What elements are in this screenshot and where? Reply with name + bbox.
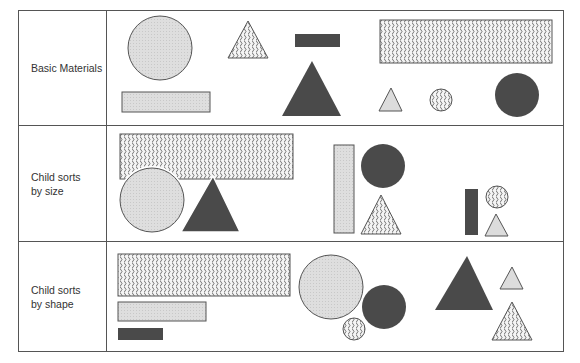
wavy-circle-small — [430, 89, 452, 111]
wavy-triangle-medium — [492, 302, 532, 340]
shapes-canvas — [0, 0, 580, 363]
dark-triangle-large — [282, 61, 341, 116]
sort-by-shape-shapes — [118, 254, 532, 340]
light-circle-large — [299, 255, 363, 319]
light-rectangle-long — [118, 302, 206, 321]
light-triangle-small — [500, 267, 523, 289]
dark-bar-small — [118, 328, 163, 340]
wavy-triangle-medium — [361, 195, 401, 234]
dark-triangle-large — [181, 176, 240, 232]
light-rectangle-long — [334, 145, 354, 233]
light-circle-large — [128, 16, 192, 80]
light-triangle-small — [379, 88, 402, 111]
wavy-circle-small — [343, 318, 365, 340]
dark-bar-small — [295, 34, 340, 47]
light-circle-large — [119, 167, 185, 233]
sort-by-size-shapes — [119, 134, 508, 236]
dark-triangle-large — [435, 256, 493, 310]
light-rectangle-long — [122, 92, 210, 112]
basic-materials-shapes — [122, 16, 552, 117]
light-triangle-small — [485, 214, 508, 236]
dark-circle-medium — [361, 144, 405, 188]
wavy-triangle-medium — [228, 21, 268, 58]
wavy-rectangle-large — [118, 254, 290, 296]
dark-circle-medium — [495, 73, 539, 117]
dark-bar-small — [465, 189, 478, 235]
dark-circle-medium — [362, 285, 406, 329]
wavy-rectangle-large — [380, 20, 552, 63]
wavy-circle-small — [486, 186, 508, 208]
